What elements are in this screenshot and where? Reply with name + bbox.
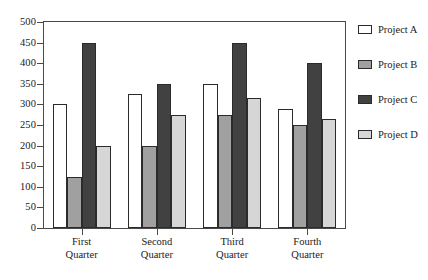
bar-chart: 050100150200250300350400450500 FirstQuar…: [0, 0, 428, 280]
legend-item[interactable]: Project C: [358, 94, 417, 105]
y-axis-tick-mark: [37, 146, 43, 147]
bar[interactable]: [307, 63, 322, 228]
legend-item[interactable]: Project A: [358, 24, 417, 35]
bar[interactable]: [67, 177, 82, 229]
bar[interactable]: [142, 146, 157, 228]
bar[interactable]: [322, 119, 337, 228]
y-axis-tick-mark: [37, 43, 43, 44]
category-label-line1: First: [72, 236, 91, 247]
y-axis-tick-label: 250: [20, 120, 36, 131]
legend-item[interactable]: Project D: [358, 129, 418, 140]
category-label-line2: Quarter: [141, 249, 173, 262]
legend-swatch-icon: [358, 130, 372, 139]
bar-group: [128, 22, 186, 228]
bar[interactable]: [96, 146, 111, 228]
legend-swatch-icon: [358, 60, 372, 69]
y-axis-tick-labels: 050100150200250300350400450500: [0, 21, 36, 229]
y-axis-tick-mark: [37, 104, 43, 105]
y-axis-tick-label: 50: [25, 202, 36, 213]
bar[interactable]: [247, 98, 262, 228]
legend-item[interactable]: Project B: [358, 59, 417, 70]
bar[interactable]: [218, 115, 233, 228]
x-axis-tick-mark: [157, 229, 158, 235]
y-axis-tick-mark: [37, 166, 43, 167]
y-axis-tick-label: 200: [20, 140, 36, 151]
legend-label: Project A: [378, 24, 417, 35]
x-axis-category-labels: FirstQuarterSecondQuarterThirdQuarterFou…: [43, 236, 346, 276]
x-axis-tick-marks: [43, 229, 346, 236]
category-label-line1: Fourth: [293, 236, 321, 247]
y-axis-tick-label: 400: [20, 58, 36, 69]
bar-group: [53, 22, 111, 228]
y-axis-tick-label: 450: [20, 37, 36, 48]
category-label-line2: Quarter: [216, 249, 248, 262]
bar[interactable]: [203, 84, 218, 228]
bar[interactable]: [232, 43, 247, 228]
y-axis-tick-mark: [37, 63, 43, 64]
y-axis-tick-mark: [37, 187, 43, 188]
bars-layer: [44, 22, 345, 228]
x-axis-category-label: ThirdQuarter: [216, 236, 248, 261]
legend-label: Project C: [378, 94, 417, 105]
y-axis-tick-label: 0: [31, 223, 36, 234]
bar[interactable]: [82, 43, 97, 228]
category-label-line2: Quarter: [291, 249, 323, 262]
x-axis-tick-mark: [307, 229, 308, 235]
y-axis-tick-label: 300: [20, 99, 36, 110]
category-label-line1: Third: [220, 236, 243, 247]
bar[interactable]: [278, 109, 293, 228]
x-axis-category-label: FourthQuarter: [291, 236, 323, 261]
bar[interactable]: [128, 94, 143, 228]
bar-group: [278, 22, 336, 228]
legend-label: Project B: [378, 59, 417, 70]
bar-group: [203, 22, 261, 228]
x-axis-category-label: SecondQuarter: [141, 236, 173, 261]
legend-swatch-icon: [358, 25, 372, 34]
legend-label: Project D: [378, 129, 418, 140]
y-axis-tick-mark: [37, 125, 43, 126]
bar[interactable]: [293, 125, 308, 228]
category-label-line2: Quarter: [66, 249, 98, 262]
bar[interactable]: [53, 104, 68, 228]
y-axis-tick-marks: [37, 21, 44, 229]
x-axis-tick-mark: [82, 229, 83, 235]
y-axis-tick-mark: [37, 84, 43, 85]
y-axis-tick-mark: [37, 22, 43, 23]
y-axis-tick-label: 350: [20, 79, 36, 90]
bar[interactable]: [171, 115, 186, 228]
y-axis-tick-mark: [37, 207, 43, 208]
y-axis-tick-label: 500: [20, 17, 36, 28]
x-axis-tick-mark: [232, 229, 233, 235]
y-axis-tick-label: 100: [20, 182, 36, 193]
bar[interactable]: [157, 84, 172, 228]
x-axis-category-label: FirstQuarter: [66, 236, 98, 261]
legend-swatch-icon: [358, 95, 372, 104]
y-axis-tick-label: 150: [20, 161, 36, 172]
category-label-line1: Second: [141, 236, 172, 247]
